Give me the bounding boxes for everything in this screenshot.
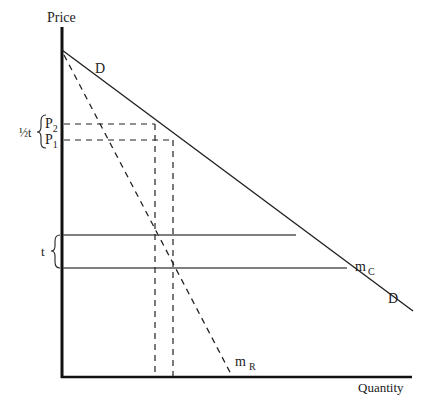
tax-label: t [41, 244, 45, 259]
diagram: Price Quantity D D mC mR P2 P1 ½t t [0, 0, 427, 410]
marginal-cost-label: mC [355, 259, 375, 277]
marginal-revenue-subscript: R [249, 361, 256, 372]
y-axis-label: Price [47, 10, 76, 25]
p1-label: P1 [45, 132, 58, 150]
demand-label-bottom: D [388, 291, 398, 306]
p1-subscript: 1 [53, 139, 58, 150]
tax-brace [51, 235, 60, 268]
marginal-revenue-curve [64, 55, 232, 376]
marginal-cost-subscript: C [368, 266, 375, 277]
demand-label-top: D [95, 61, 105, 76]
half-tax-label: ½t [19, 126, 32, 140]
x-axis-label: Quantity [358, 380, 404, 395]
p2-subscript: 2 [53, 123, 58, 134]
marginal-revenue-label: mR [235, 354, 256, 372]
